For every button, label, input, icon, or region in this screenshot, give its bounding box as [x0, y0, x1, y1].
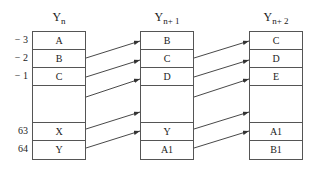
shift-arrows	[0, 0, 317, 169]
arrow	[86, 112, 140, 129]
arrow	[194, 41, 249, 58]
arrow	[86, 131, 140, 148]
arrow	[194, 79, 249, 97]
arrow	[86, 79, 140, 97]
arrow	[194, 112, 249, 129]
arrow	[86, 60, 140, 77]
arrow	[194, 131, 249, 148]
arrow	[194, 60, 249, 77]
arrow	[86, 41, 140, 58]
